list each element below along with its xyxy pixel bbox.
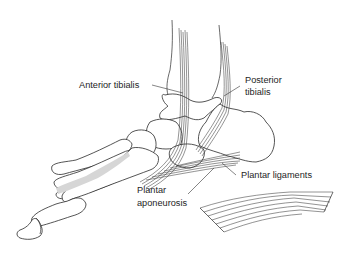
label-plantar-aponeurosis-line2: aponeurosis bbox=[137, 198, 187, 209]
label-plantar-aponeurosis-line1: Plantar bbox=[137, 185, 166, 196]
label-posterior-tibialis-line2: tibialis bbox=[245, 87, 271, 98]
plantar-ligaments-leader bbox=[222, 163, 236, 175]
plantar-aponeurosis-fan bbox=[200, 192, 333, 232]
label-anterior-tibialis: Anterior tibialis bbox=[79, 80, 139, 91]
tibia-outline bbox=[167, 20, 172, 95]
label-posterior-tibialis-line1: Posterior bbox=[245, 75, 282, 86]
foot-line-drawing bbox=[0, 0, 351, 255]
label-plantar-ligaments: Plantar ligaments bbox=[241, 170, 312, 181]
foot-anatomy-diagram: Anterior tibialis Posterior tibialis Pla… bbox=[0, 0, 351, 255]
fibula-outline bbox=[212, 25, 221, 98]
distal-phalanx-bone bbox=[17, 219, 42, 240]
